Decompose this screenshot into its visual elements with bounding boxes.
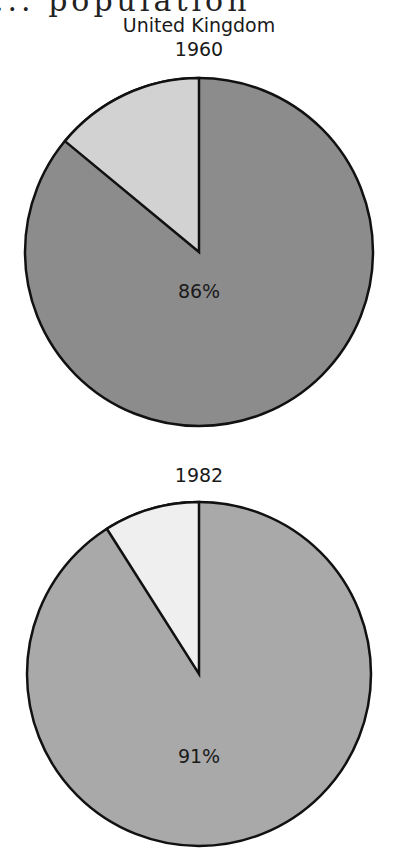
pie-chart-1960: 86% [0,0,420,440]
pie-chart-1982: 91% [0,440,420,853]
pie-1960-major-label: 86% [178,280,220,302]
pie-1982-major-label: 91% [178,745,220,767]
